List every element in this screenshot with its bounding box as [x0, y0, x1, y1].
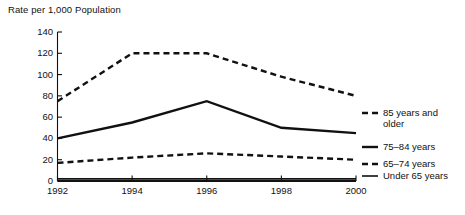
x-tick-label: 1996 — [196, 185, 217, 196]
series-line-2 — [58, 153, 357, 163]
y-tick-labels: 020406080100120140 — [37, 26, 53, 186]
x-tick-label: 1992 — [47, 185, 68, 196]
y-tick-label: 60 — [42, 111, 53, 122]
line-chart-plot: 020406080100120140 19921994199619982000 … — [0, 0, 465, 215]
x-tick-label: 1998 — [271, 185, 292, 196]
y-tick-label: 120 — [37, 47, 53, 58]
y-tick-label: 140 — [37, 26, 53, 37]
y-tick-label: 40 — [42, 132, 53, 143]
x-tick-labels: 19921994199619982000 — [47, 185, 367, 196]
chart-legend: 85 years andolder75–84 years65–74 yearsU… — [362, 107, 448, 181]
data-series-group — [58, 53, 357, 179]
legend-label-2: 65–74 years — [383, 158, 436, 169]
legend-label-1: 75–84 years — [383, 141, 436, 152]
y-tick-marks — [58, 32, 63, 181]
series-line-1 — [58, 101, 357, 138]
y-tick-label: 80 — [42, 90, 53, 101]
chart-container: Rate per 1,000 Population 02040608010012… — [0, 0, 465, 215]
legend-label-0: 85 years and — [383, 107, 438, 118]
x-tick-label: 1994 — [122, 185, 143, 196]
x-tick-label: 2000 — [345, 185, 366, 196]
legend-label-3: Under 65 years — [383, 170, 448, 181]
series-line-0 — [58, 53, 357, 101]
legend-label-0-line2: older — [383, 118, 404, 129]
y-tick-label: 100 — [37, 69, 53, 80]
y-tick-label: 20 — [42, 154, 53, 165]
